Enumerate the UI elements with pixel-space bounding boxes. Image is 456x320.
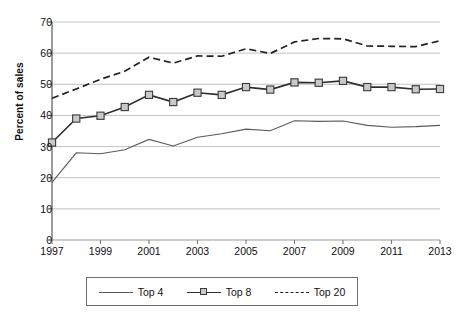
- legend-item-top8[interactable]: Top 8: [187, 286, 252, 298]
- data-point-marker: [339, 77, 346, 84]
- data-point-marker: [242, 83, 249, 90]
- data-point-marker: [364, 83, 371, 90]
- legend-swatch-line-icon: [99, 286, 133, 298]
- y-tick-label: 20: [26, 172, 52, 184]
- data-point-marker: [194, 89, 201, 96]
- legend-item-top4[interactable]: Top 4: [99, 286, 164, 298]
- legend-item-top20[interactable]: Top 20: [275, 286, 346, 298]
- plot-area: Percent of sales 010203040506070 1997199…: [0, 0, 456, 320]
- y-tick-label: 70: [26, 16, 52, 28]
- y-axis-tick-labels: 010203040506070: [26, 0, 52, 320]
- y-tick-label: 40: [26, 109, 52, 121]
- data-point-marker: [436, 85, 443, 92]
- legend-label-top8: Top 8: [226, 286, 252, 298]
- x-tick-label: 1997: [40, 245, 63, 257]
- chart-root: Percent of sales 010203040506070 1997199…: [0, 0, 456, 320]
- legend-swatch-square-marker-icon: [187, 286, 221, 298]
- y-tick-label: 50: [26, 78, 52, 90]
- x-tick-label: 2007: [283, 245, 306, 257]
- x-tick-label: 2013: [428, 245, 451, 257]
- legend-label-top20: Top 20: [314, 286, 346, 298]
- data-point-marker: [73, 115, 80, 122]
- y-tick-label: 30: [26, 141, 52, 153]
- legend-label-top4: Top 4: [138, 286, 164, 298]
- data-point-marker: [388, 83, 395, 90]
- data-point-marker: [267, 86, 274, 93]
- y-tick-label: 60: [26, 47, 52, 59]
- data-point-marker: [412, 86, 419, 93]
- y-tick-label: 10: [26, 203, 52, 215]
- x-tick-label: 2011: [380, 245, 403, 257]
- x-tick-label: 2005: [234, 245, 257, 257]
- data-point-marker: [145, 91, 152, 98]
- x-tick-label: 2009: [331, 245, 354, 257]
- legend-swatch-dashed-icon: [275, 286, 309, 298]
- data-point-marker: [315, 79, 322, 86]
- data-point-marker: [218, 91, 225, 98]
- y-axis-title: Percent of sales: [14, 47, 25, 157]
- series-line-top-4: [52, 121, 440, 183]
- x-tick-label: 1999: [89, 245, 112, 257]
- data-point-marker: [97, 112, 104, 119]
- data-point-marker: [121, 103, 128, 110]
- chart-canvas: [0, 0, 456, 320]
- chart-legend: Top 4 Top 8 Top 20: [86, 277, 358, 306]
- data-point-marker: [170, 98, 177, 105]
- x-tick-label: 2003: [186, 245, 209, 257]
- data-point-marker: [291, 79, 298, 86]
- x-tick-label: 2001: [137, 245, 160, 257]
